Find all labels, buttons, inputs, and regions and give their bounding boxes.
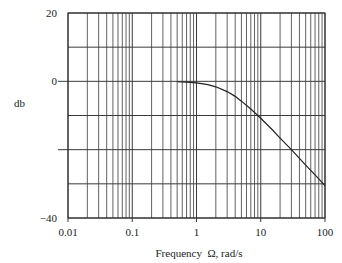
y-tick-label: 0 — [52, 75, 58, 87]
x-tick-label: 10 — [255, 226, 267, 238]
y-axis-label: db — [14, 97, 26, 109]
bode-magnitude-chart: 200−40 0.010.1110100 db Frequency Ω, rad… — [0, 0, 342, 263]
x-tick-label: 0.1 — [125, 226, 139, 238]
x-tick-label: 0.01 — [58, 226, 77, 238]
x-tick-label: 100 — [317, 226, 334, 238]
horizontal-gridlines — [58, 13, 325, 218]
x-axis-ticks: 0.010.1110100 — [58, 218, 333, 238]
y-tick-label: −40 — [40, 212, 58, 224]
y-tick-label: 20 — [46, 7, 58, 19]
x-axis-label: Frequency Ω, rad/s — [156, 247, 243, 259]
y-axis-ticks: 200−40 — [40, 7, 58, 224]
x-tick-label: 1 — [194, 226, 200, 238]
